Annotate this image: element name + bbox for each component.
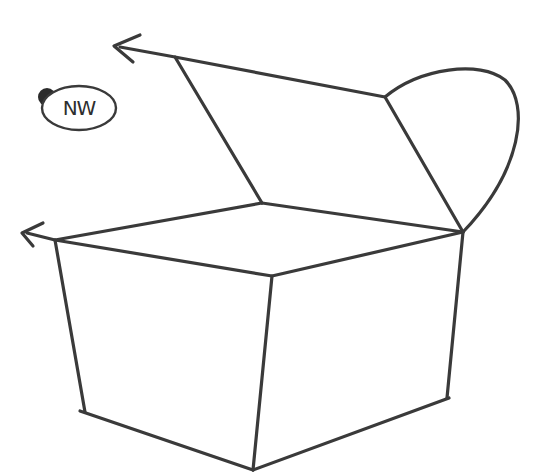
- left-edge: [55, 240, 85, 412]
- box-top: [22, 203, 463, 276]
- right-edge: [447, 232, 463, 398]
- box-lid: [114, 35, 463, 232]
- box-body: [55, 232, 463, 470]
- open-box-sketch: NW: [0, 0, 535, 475]
- bottom-left-edge: [80, 411, 253, 470]
- lid-outline: [175, 57, 463, 232]
- nw-badge: NW: [38, 86, 116, 130]
- base-arrow-shaft: [27, 233, 55, 240]
- front-edge: [253, 276, 272, 470]
- bottom-right-edge: [253, 398, 449, 470]
- lid-arrow-shaft: [120, 47, 175, 57]
- badge-label: NW: [63, 96, 97, 120]
- top-face: [55, 203, 463, 276]
- side-flap: [385, 69, 518, 232]
